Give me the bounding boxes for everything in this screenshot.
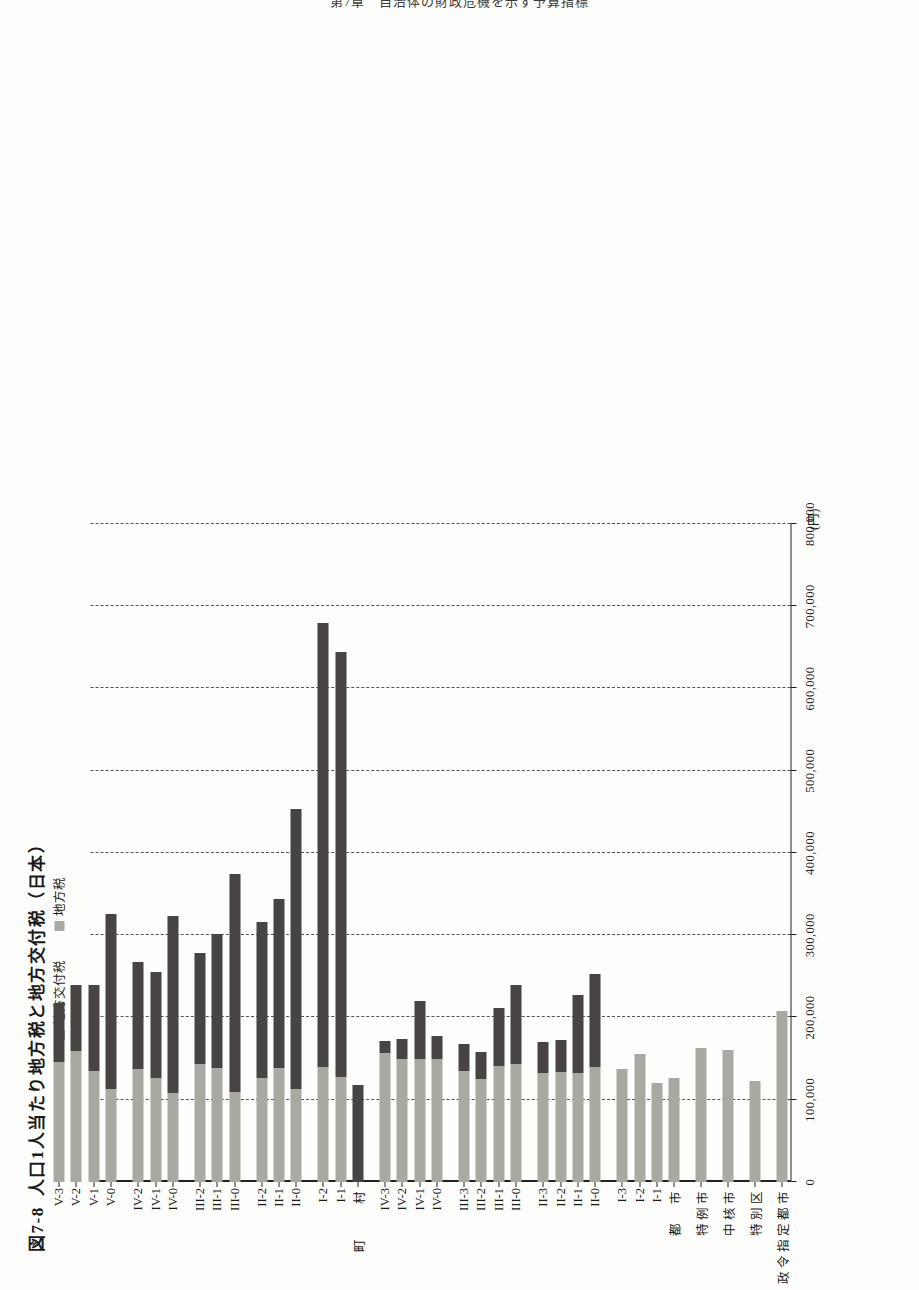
group-label-1: 特別区 [746, 1188, 765, 1236]
bar-row [475, 1052, 486, 1182]
bar-row [776, 1011, 787, 1182]
category-label-iv-2: IV-2 [131, 1188, 146, 1210]
category-tick [577, 1182, 578, 1187]
bar-row [493, 1008, 504, 1182]
category-tick [322, 1182, 323, 1187]
category-label-iv-3: IV-3 [377, 1188, 392, 1210]
category-label-ii-1: II-1 [271, 1188, 286, 1207]
category-label-ii-2: II-2 [254, 1188, 269, 1207]
bar-row [668, 1078, 679, 1182]
category-tick [436, 1182, 437, 1187]
bar-segment-local-tax [150, 1078, 161, 1182]
value-tick-label: 500,000 [802, 749, 817, 793]
bar-row [572, 995, 583, 1182]
group-label-0: 政令指定都市 [773, 1188, 792, 1284]
bar-segment-local-tax [616, 1069, 627, 1182]
bar-row [510, 985, 521, 1182]
category-tick [639, 1182, 640, 1187]
bar-segment-local-tax [651, 1083, 662, 1182]
category-tick [93, 1182, 94, 1187]
bar-row [317, 623, 328, 1182]
category-tick [75, 1182, 76, 1187]
category-label-ii-3: II-3 [536, 1188, 551, 1207]
axis-tick [790, 1017, 796, 1018]
group-label-2: 中核市 [719, 1188, 738, 1236]
value-tick-label: 100,000 [802, 1078, 817, 1122]
bar-segment-local-tax [273, 1068, 284, 1182]
group-label-4: 都 市 [665, 1188, 684, 1236]
category-label-v-0: V-0 [104, 1188, 119, 1206]
category-tick [656, 1182, 657, 1187]
category-label-iii-1: III-1 [210, 1188, 225, 1211]
category-label-ii-2: II-2 [553, 1188, 568, 1207]
category-tick [700, 1182, 701, 1187]
bar-segment-allocation-tax [379, 1041, 390, 1053]
bar-segment-allocation-tax [256, 922, 267, 1078]
plot-area: 政令指定都市特別区中核市特例市都 市I-1I-2I-3II-0II-1II-2I… [90, 524, 790, 1182]
category-tick [234, 1182, 235, 1187]
bar-row [695, 1048, 706, 1182]
bar-segment-local-tax [493, 1066, 504, 1182]
category-label-i-2: I-2 [316, 1188, 331, 1203]
bar-segment-allocation-tax [352, 1085, 363, 1182]
category-tick [515, 1182, 516, 1187]
bar-segment-allocation-tax [475, 1052, 486, 1079]
value-tick-label: 700,000 [802, 584, 817, 628]
axis-tick [790, 523, 796, 524]
bar-row [229, 874, 240, 1182]
category-tick [172, 1182, 173, 1187]
bar-segment-local-tax [317, 1067, 328, 1182]
category-tick [261, 1182, 262, 1187]
bar-segment-local-tax [396, 1059, 407, 1182]
bar-segment-allocation-tax [555, 1040, 566, 1072]
bar-segment-allocation-tax [335, 652, 346, 1077]
bar-segment-local-tax [722, 1050, 733, 1182]
category-label-iv-0: IV-0 [430, 1188, 445, 1210]
category-label-ii-0: II-0 [588, 1188, 603, 1207]
legend-label-tax: 地方税 [52, 877, 66, 916]
bar-row [458, 1044, 469, 1182]
bar-segment-allocation-tax [431, 1036, 442, 1059]
category-label-ii-0: II-0 [289, 1188, 304, 1207]
category-tick [754, 1182, 755, 1187]
category-label-iv-1: IV-1 [412, 1188, 427, 1210]
bar-segment-allocation-tax [290, 809, 301, 1089]
bar-row [634, 1054, 645, 1182]
tick-axis-line [790, 524, 791, 1182]
axis-tick [790, 934, 796, 935]
bar-segment-local-tax [537, 1073, 548, 1182]
figure-number: 図7-8 [27, 1206, 46, 1252]
value-tick-label: 400,000 [802, 831, 817, 875]
value-tick-label: 200,000 [802, 995, 817, 1039]
bar-segment-allocation-tax [589, 974, 600, 1067]
bar-segment-local-tax [776, 1011, 787, 1182]
category-tick [357, 1182, 358, 1187]
category-label-v-3: V-3 [52, 1188, 67, 1206]
gridline [90, 605, 790, 606]
bar-segment-local-tax [88, 1071, 99, 1182]
bar-row [70, 985, 81, 1182]
bar-segment-allocation-tax [317, 623, 328, 1067]
category-tick [384, 1182, 385, 1187]
category-label-iv-1: IV-1 [148, 1188, 163, 1210]
category-tick [419, 1182, 420, 1187]
category-tick [340, 1182, 341, 1187]
bar-row [537, 1042, 548, 1182]
bar-row [167, 916, 178, 1182]
bar-segment-local-tax [431, 1059, 442, 1182]
axis-tick [790, 852, 796, 853]
bar-segment-allocation-tax [572, 995, 583, 1072]
bar-segment-allocation-tax [458, 1044, 469, 1071]
gridline [90, 852, 790, 853]
category-label-v-1: V-1 [86, 1188, 101, 1206]
axis-tick [790, 605, 796, 606]
category-tick [560, 1182, 561, 1187]
bar-segment-allocation-tax [53, 1003, 64, 1062]
bar-row [414, 1001, 425, 1182]
category-label-i-1: I-1 [650, 1188, 665, 1203]
bar-segment-local-tax [379, 1053, 390, 1182]
bar-segment-local-tax [256, 1078, 267, 1182]
bar-segment-allocation-tax [414, 1001, 425, 1059]
category-tick [480, 1182, 481, 1187]
bar-row [352, 1085, 363, 1182]
